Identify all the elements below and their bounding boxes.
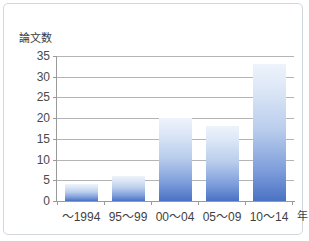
y-tick-mark-30: [53, 77, 57, 78]
y-tick-mark-10: [53, 160, 57, 161]
y-tick-label-10: 10: [37, 153, 50, 167]
plot-area: 35 30 25 20 15 10 5 0: [57, 56, 294, 201]
y-tick-mark-5: [53, 180, 57, 181]
y-tick-label-35: 35: [37, 49, 50, 63]
y-tick-mark-25: [53, 97, 57, 98]
y-tick-label-25: 25: [37, 90, 50, 104]
x-tick-mark-0: [57, 201, 58, 205]
x-tick-label-3: 05〜09: [203, 207, 242, 224]
bar-1: [112, 176, 145, 201]
bar-2: [159, 118, 192, 201]
y-tick-label-5: 5: [43, 173, 50, 187]
y-tick-label-0: 0: [43, 194, 50, 208]
x-tick-label-1: 95〜99: [109, 207, 148, 224]
x-tick-mark-5: [292, 201, 293, 205]
bar-3: [206, 126, 239, 201]
y-tick-label-15: 15: [37, 132, 50, 146]
x-tick-label-2: 00〜04: [156, 207, 195, 224]
y-tick-mark-20: [53, 118, 57, 119]
x-tick-mark-2: [151, 201, 152, 205]
y-axis-title: 論文数: [19, 29, 52, 45]
gridline-35: 35: [57, 56, 294, 57]
x-tick-label-4: 10〜14: [250, 207, 289, 224]
chart-frame: 論文数 35 30 25 20 15 10 5: [3, 3, 303, 235]
x-axis-unit-label: 年: [297, 207, 308, 223]
x-tick-label-0: 〜1994: [62, 207, 101, 224]
bar-4: [253, 64, 286, 201]
y-tick-mark-15: [53, 139, 57, 140]
bar-0: [65, 184, 98, 201]
y-tick-label-20: 20: [37, 111, 50, 125]
y-tick-mark-35: [53, 56, 57, 57]
x-tick-mark-3: [198, 201, 199, 205]
y-tick-label-30: 30: [37, 70, 50, 84]
gridline-0: 0: [57, 201, 294, 202]
x-tick-mark-4: [245, 201, 246, 205]
x-tick-mark-1: [104, 201, 105, 205]
